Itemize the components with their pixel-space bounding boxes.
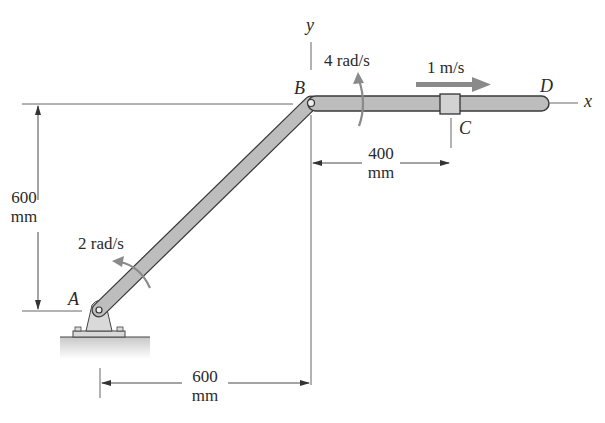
omega-AB-label: 2 rad/s [78, 235, 124, 252]
pin-A [96, 307, 102, 313]
dim-horizontal-unit: mm [186, 387, 224, 404]
point-label-C: C [459, 119, 471, 137]
dim-horizontal-value: 600 [186, 368, 224, 385]
omega-BD-label: 4 rad/s [324, 52, 370, 69]
ground-support [60, 337, 150, 359]
pin-B [308, 100, 315, 107]
link-AB [99, 103, 311, 310]
rod-BD [308, 96, 549, 111]
dim-vertical-value: 600 [6, 189, 42, 206]
point-label-B: B [294, 79, 305, 97]
velocity-arrow [416, 77, 491, 92]
dim-vertical-unit: mm [6, 208, 42, 225]
axis-label-x: x [584, 92, 592, 110]
velocity-label: 1 m/s [427, 59, 464, 76]
axis-label-y: y [306, 16, 314, 34]
point-label-A: A [68, 290, 79, 308]
collar-C [440, 94, 460, 114]
point-label-D: D [540, 77, 553, 95]
dim-BC-value: 400 [362, 145, 400, 162]
mechanism-diagram [0, 0, 605, 423]
dim-BC-unit: mm [362, 164, 400, 181]
